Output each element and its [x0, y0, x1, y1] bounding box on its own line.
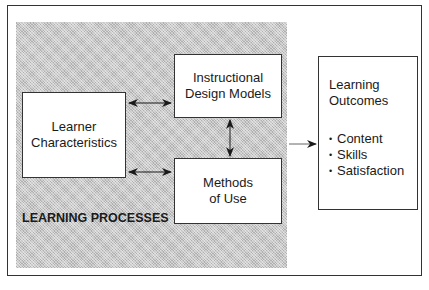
outcomes-title-line: Outcomes: [329, 93, 417, 109]
box-label-line: Design Models: [185, 86, 271, 102]
box-label-line: of Use: [203, 191, 253, 207]
instructional-design-models-box: Instructional Design Models: [174, 54, 282, 118]
learner-characteristics-box: Learner Characteristics: [22, 92, 126, 178]
box-label-line: Instructional: [185, 70, 271, 86]
outcomes-title-line: Learning: [329, 77, 417, 93]
outcome-item-content: Content: [329, 131, 417, 147]
outcome-item-skills: Skills: [329, 147, 417, 163]
learning-outcomes-box: Learning Outcomes Content Skills Satisfa…: [318, 56, 418, 210]
outcome-item-satisfaction: Satisfaction: [329, 163, 417, 179]
outcomes-list: Content Skills Satisfaction: [329, 131, 417, 179]
methods-of-use-box: Methods of Use: [174, 158, 282, 224]
learning-processes-label: LEARNING PROCESSES: [22, 211, 169, 225]
box-label-line: Methods: [203, 175, 253, 191]
box-label-line: Learner: [31, 119, 117, 135]
box-label-line: Characteristics: [31, 135, 117, 151]
